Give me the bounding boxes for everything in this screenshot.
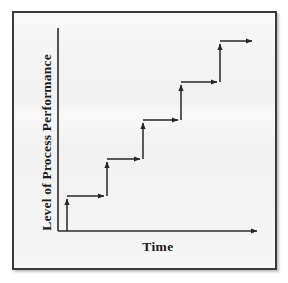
chart-frame: Level of Process Performance Time: [12, 11, 277, 270]
y-axis-title: Level of Process Performance: [38, 13, 56, 272]
figure-root: Level of Process Performance Time: [0, 0, 288, 283]
x-axis-title: Time: [58, 239, 258, 255]
